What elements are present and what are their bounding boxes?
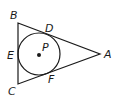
label-center-p: P (42, 41, 49, 54)
label-tangent-e: E (7, 49, 14, 62)
center-point-p (37, 53, 41, 57)
label-tangent-d: D (45, 22, 53, 35)
label-vertex-a: A (103, 48, 112, 61)
label-vertex-c: C (8, 85, 16, 97)
label-vertex-b: B (10, 9, 18, 22)
triangle-abc (18, 23, 100, 84)
geometry-diagram: B C A D E F P (0, 0, 118, 97)
label-tangent-f: F (48, 73, 55, 86)
